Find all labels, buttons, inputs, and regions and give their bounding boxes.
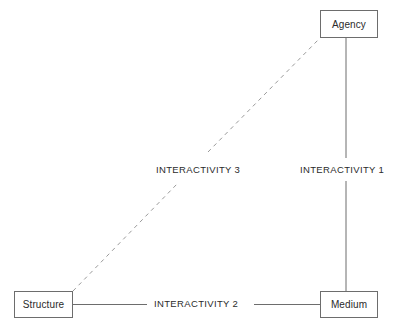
node-agency-label: Agency [332, 19, 366, 30]
diagram-canvas: Agency Structure Medium INTERACTIVITY 1 … [0, 0, 400, 336]
node-medium[interactable]: Medium [320, 291, 378, 318]
edge-label-interactivity-3: INTERACTIVITY 3 [152, 163, 244, 176]
node-medium-label: Medium [331, 299, 367, 310]
edge-label-interactivity-1: INTERACTIVITY 1 [296, 163, 388, 176]
node-agency[interactable]: Agency [320, 10, 378, 38]
edge-interactivity-3-lower [73, 183, 178, 291]
edge-label-interactivity-2: INTERACTIVITY 2 [150, 297, 242, 310]
edge-interactivity-3-upper [208, 38, 320, 152]
node-structure-label: Structure [23, 299, 64, 310]
node-structure[interactable]: Structure [14, 291, 73, 318]
